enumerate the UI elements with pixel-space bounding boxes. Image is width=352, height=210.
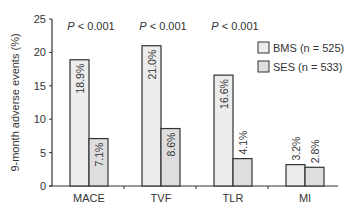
bar-data-label: 21.0% <box>146 50 158 80</box>
annotations: P < 0.001P < 0.001P < 0.001 <box>67 20 258 32</box>
bar-ses-mi <box>305 167 324 186</box>
bar-chart: 05101520259-month adverse events (%)MACE… <box>0 0 352 210</box>
legend-swatch <box>258 42 269 53</box>
bar-bms-mi <box>286 165 305 186</box>
y-tick-label: 0 <box>40 180 46 192</box>
legend-label: SES (n = 533) <box>273 61 342 73</box>
x-tick-label: MI <box>299 192 311 204</box>
x-tick-label: TLR <box>223 192 244 204</box>
y-axis-title: 9-month adverse events (%) <box>9 33 21 171</box>
bar-data-label: 16.6% <box>218 79 230 109</box>
legend-swatch <box>258 61 269 72</box>
bar-data-label: 18.9% <box>74 64 86 94</box>
bar-data-label: 8.6% <box>165 133 177 157</box>
p-value-annotation: P < 0.001 <box>67 20 114 32</box>
x-tick-label: MACE <box>73 192 105 204</box>
bar-data-label: 7.1% <box>93 143 105 167</box>
legend: BMS (n = 525)SES (n = 533) <box>258 42 344 73</box>
y-tick-label: 10 <box>34 113 46 125</box>
y-tick-label: 15 <box>34 80 46 92</box>
bar-data-label: 4.1% <box>237 131 249 155</box>
p-value-annotation: P < 0.001 <box>211 20 258 32</box>
bar-ses-tlr <box>233 159 252 186</box>
y-tick-label: 20 <box>34 46 46 58</box>
x-tick-label: TVF <box>151 192 172 204</box>
y-tick-label: 25 <box>34 13 46 25</box>
bar-data-label: 2.8% <box>309 139 321 163</box>
legend-label: BMS (n = 525) <box>273 42 344 54</box>
p-value-annotation: P < 0.001 <box>139 20 186 32</box>
bar-data-label: 3.2% <box>290 137 302 161</box>
y-tick-label: 5 <box>40 147 46 159</box>
